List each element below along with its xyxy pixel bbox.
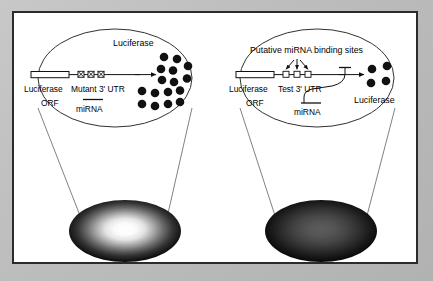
left-luciferase-title: Luciferase: [113, 39, 154, 48]
right-binding-sites-title: Putative miRNA binding sites: [250, 46, 363, 55]
right-binding-site-1: [283, 71, 289, 77]
left-mutated-site-3: [98, 71, 104, 77]
left-well-luminescence: [69, 200, 181, 262]
left-mirna-label: miRNA: [76, 105, 103, 113]
left-mutated-site-2: [88, 71, 94, 77]
left-orf-label-line2: ORF: [41, 99, 59, 107]
right-utr-label: Test 3' UTR: [278, 85, 321, 93]
left-mutated-site-1: [78, 71, 84, 77]
right-well-luminescence: [265, 200, 377, 262]
left-utr-label: Mutant 3' UTR: [71, 85, 125, 93]
right-luciferase-orf-box: [236, 72, 274, 78]
right-orf-label-line1: Luciferase: [229, 85, 268, 93]
figure-canvas: Luciferase Luciferase ORF Mutant 3' UTR …: [14, 13, 416, 262]
left-orf-label-line1: Luciferase: [24, 85, 63, 93]
figure-container: Luciferase Luciferase ORF Mutant 3' UTR …: [0, 0, 433, 281]
right-binding-site-2: [294, 71, 300, 77]
right-orf-label-line2: ORF: [246, 99, 264, 107]
right-mirna-label: miRNA: [294, 108, 321, 116]
right-luciferase-product-label: Luciferase: [354, 96, 395, 105]
left-luciferase-orf-box: [31, 72, 69, 78]
right-binding-site-3: [305, 71, 311, 77]
